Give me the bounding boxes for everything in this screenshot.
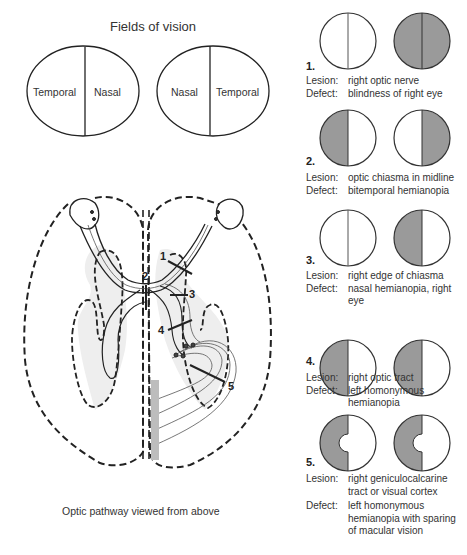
case-1-text: Lesion:right optic nerve Defect:blindnes… <box>306 75 466 100</box>
case-2-lesion: optic chiasma in midline <box>348 172 466 185</box>
case-2-left-field-icon <box>320 110 376 166</box>
lesion-marker-1: 1 <box>160 250 166 262</box>
case-5-left-field-icon <box>320 415 376 471</box>
case-3-lesion: right edge of chiasma <box>348 270 466 283</box>
case-2-defect: bitemporal hemianopia <box>348 185 466 198</box>
lesion-marker-4: 4 <box>158 324 164 336</box>
right-eye-temporal-label: Temporal <box>216 86 259 98</box>
defect-key: Defect: <box>306 185 348 198</box>
case-4-defect: left homonymous hemianopia <box>348 385 428 410</box>
visual-cortex-stipple <box>151 380 159 460</box>
case-1-defect: blindness of right eye <box>348 88 466 101</box>
case-3-number: 3. <box>306 254 315 266</box>
lesion-key: Lesion: <box>306 372 348 385</box>
left-eye-temporal-label: Temporal <box>33 86 76 98</box>
case-1-number: 1. <box>306 60 315 72</box>
optic-pathway-diagram <box>24 197 271 468</box>
case-4-lesion: right optic tract <box>348 372 466 385</box>
lesion-key: Lesion: <box>306 172 348 185</box>
optic-pathway-caption: Optic pathway viewed from above <box>62 505 220 517</box>
case-4-text: Lesion:right optic tract Defect:left hom… <box>306 372 466 410</box>
defect-key: Defect: <box>306 500 348 538</box>
case-2-text: Lesion:optic chiasma in midline Defect:b… <box>306 172 466 197</box>
defect-key: Defect: <box>306 88 348 101</box>
case-2-right-field-icon <box>394 110 450 166</box>
case-1-left-field-icon <box>320 13 376 69</box>
case-5-defect: left homonymous hemianopia with sparing … <box>348 500 460 538</box>
case-5-lesion: right geniculocalcarine tract or visual … <box>348 473 460 498</box>
lesion-key: Lesion: <box>306 270 348 283</box>
lesion-marker-2: 2 <box>142 270 148 282</box>
lesion-marker-3: 3 <box>189 288 195 300</box>
case-5-text: Lesion:right geniculocalcarine tract or … <box>306 473 466 538</box>
lesion-marker-5: 5 <box>228 380 234 392</box>
case-4-number: 4. <box>306 355 315 367</box>
case-2-number: 2. <box>306 155 315 167</box>
case-5-number: 5. <box>306 456 315 468</box>
defect-key: Defect: <box>306 283 348 308</box>
case-3-right-field-icon <box>394 210 450 266</box>
case-3-left-field-icon <box>320 210 376 266</box>
left-eye-nasal-label: Nasal <box>94 86 121 98</box>
case-3-text: Lesion:right edge of chiasma Defect:nasa… <box>306 270 466 308</box>
lesion-key: Lesion: <box>306 75 348 88</box>
case-1-lesion: right optic nerve <box>348 75 466 88</box>
defect-key: Defect: <box>306 385 348 410</box>
case-1-right-field-icon <box>394 13 450 69</box>
case-3-defect: nasal hemianopia, right eye <box>348 283 466 308</box>
lesion-key: Lesion: <box>306 473 348 498</box>
case-5-right-field-icon <box>394 415 450 471</box>
right-eye-nasal-label: Nasal <box>171 86 198 98</box>
